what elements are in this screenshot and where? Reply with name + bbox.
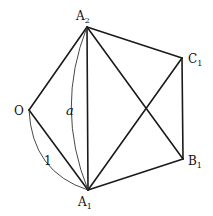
- label-arc-1: 1: [44, 154, 52, 168]
- label-A2: A2: [75, 9, 90, 25]
- edge-O-A2: [29, 27, 87, 110]
- label-O: O: [14, 104, 24, 118]
- edge-A2-B1: [87, 27, 183, 159]
- label-A1: A1: [77, 195, 92, 211]
- label-C1-main: C: [188, 52, 197, 66]
- label-B1-main: B: [188, 154, 197, 168]
- edge-A1-B1: [88, 159, 183, 190]
- edge-A2-A1: [87, 27, 88, 190]
- edge-A1-C1: [88, 58, 182, 190]
- label-B1-sub: 1: [197, 161, 202, 170]
- label-arc-a: a: [66, 103, 74, 118]
- edge-O-A1: [29, 110, 88, 190]
- label-A1-sub: 1: [87, 202, 92, 211]
- label-B1: B1: [188, 154, 202, 170]
- edge-C1-B1: [182, 58, 183, 159]
- geometry-diagram: O A2 A1 C1 B1 1 a: [0, 0, 213, 216]
- label-A2-main: A: [75, 9, 85, 23]
- edge-A2-C1: [87, 27, 182, 58]
- label-A1-main: A: [77, 195, 87, 209]
- label-C1: C1: [188, 52, 202, 68]
- label-A2-sub: 2: [85, 16, 90, 25]
- label-C1-sub: 1: [197, 59, 202, 68]
